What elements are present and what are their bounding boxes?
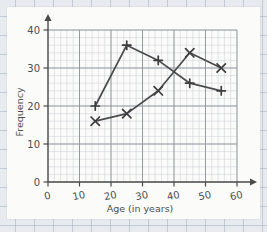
figure-card: 0102030405060010203040 Age (in years) Fr…	[7, 7, 260, 219]
y-tick-label: 20	[27, 101, 40, 112]
x-tick-label: 20	[103, 189, 118, 202]
x-tick-label: 10	[71, 189, 86, 202]
chart-plot-area: 0102030405060010203040 Age (in years) Fr…	[7, 7, 260, 219]
x-tick-label: 40	[166, 189, 181, 202]
page-background: 0102030405060010203040 Age (in years) Fr…	[0, 0, 267, 232]
x-tick-label: 30	[134, 189, 149, 202]
y-tick-label: 40	[27, 25, 40, 36]
x-tick-label: 50	[197, 189, 212, 202]
axes	[44, 14, 257, 186]
x-tick-label: 0	[43, 190, 52, 202]
axis-ticks	[44, 30, 238, 187]
x-axis-arrowhead	[250, 178, 257, 185]
y-axis-arrowhead	[44, 14, 51, 21]
x-tick-label: 60	[229, 189, 244, 202]
y-tick-label: 30	[27, 63, 40, 74]
frequency-vs-age-line-chart: 0102030405060010203040 Age (in years) Fr…	[7, 7, 260, 219]
y-tick-label: 10	[27, 139, 40, 150]
x-axis-title: Age (in years)	[107, 203, 174, 214]
y-axis-title: Frequency	[14, 87, 25, 136]
y-tick-label: 0	[34, 177, 40, 188]
